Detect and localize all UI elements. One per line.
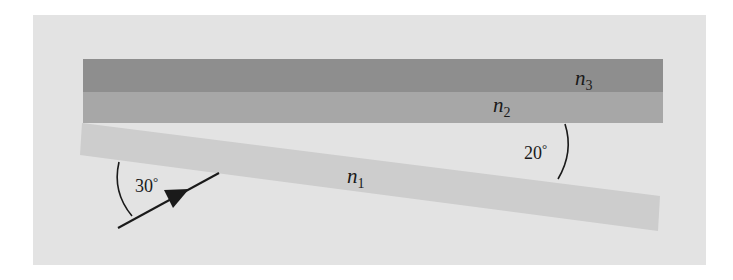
refraction-diagram: n3 n2 n1 30° 20° xyxy=(0,0,733,280)
layer-n2 xyxy=(83,92,663,123)
diagram-canvas: n3 n2 n1 30° 20° xyxy=(0,0,733,280)
